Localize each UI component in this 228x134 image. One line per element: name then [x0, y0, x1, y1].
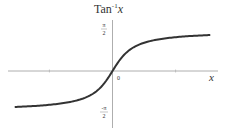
- ytick-label-bottom-den: 2: [103, 113, 106, 119]
- chart: Tan-1x π 2 -π 2 0 x: [0, 0, 228, 134]
- ytick-label-top-den: 2: [103, 30, 106, 36]
- chart-title: Tan-1x: [94, 2, 124, 16]
- origin-label: 0: [117, 75, 120, 81]
- x-axis-label: x: [208, 71, 214, 83]
- ytick-label-top-num: π: [102, 22, 105, 28]
- ytick-label-bottom-num: -π: [101, 105, 106, 111]
